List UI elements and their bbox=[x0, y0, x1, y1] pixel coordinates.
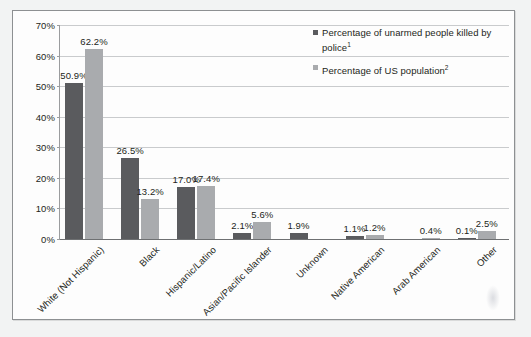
y-axis-tick-label: 50% bbox=[36, 81, 55, 92]
x-axis-tick-label: Hispanic/Latino bbox=[163, 244, 218, 299]
x-axis-tick-label: Native American bbox=[329, 244, 387, 302]
chart-legend: Percentage of unarmed people killed by p… bbox=[313, 27, 513, 86]
bar-value-label: 26.5% bbox=[116, 145, 143, 156]
y-axis-tick-label: 20% bbox=[36, 172, 55, 183]
legend-item[interactable]: Percentage of unarmed people killed by p… bbox=[313, 27, 513, 53]
bar-value-label: 13.2% bbox=[136, 186, 163, 197]
bar: 1.1% bbox=[346, 236, 364, 239]
y-axis-tick-label: 10% bbox=[36, 203, 55, 214]
y-axis-tick-mark bbox=[57, 239, 60, 240]
bar-value-label: 1.9% bbox=[287, 220, 309, 231]
bar: 50.9% bbox=[65, 83, 83, 239]
bar-value-label: 0.4% bbox=[420, 225, 442, 236]
x-axis-tick-label: Black bbox=[137, 244, 162, 269]
bar: 26.5% bbox=[121, 158, 139, 239]
bar: 13.2% bbox=[141, 199, 159, 239]
bar-value-label: 1.2% bbox=[364, 222, 386, 233]
chart-figure: 0%10%20%30%40%50%60%70%50.9%62.2%White (… bbox=[12, 10, 515, 320]
legend-swatch-icon bbox=[313, 65, 318, 70]
bar: 62.2% bbox=[85, 49, 103, 239]
y-axis-tick-label: 60% bbox=[36, 50, 55, 61]
legend-item-label: Percentage of unarmed people killed by p… bbox=[322, 27, 513, 53]
x-axis-tick-label: White (Not Hispanic) bbox=[35, 244, 106, 315]
legend-item-label: Percentage of US population2 bbox=[322, 62, 449, 77]
legend-swatch-icon bbox=[313, 30, 318, 35]
bar-value-label: 62.2% bbox=[80, 36, 107, 47]
bar-value-label: 5.6% bbox=[251, 209, 273, 220]
y-axis-tick-label: 70% bbox=[36, 20, 55, 31]
bar-value-label: 2.5% bbox=[476, 218, 498, 229]
x-axis-tick-label: Other bbox=[474, 244, 499, 269]
bar-value-label: 17.4% bbox=[193, 173, 220, 184]
bar: 17.0% bbox=[177, 187, 195, 239]
bar-value-label: 1.1% bbox=[344, 223, 366, 234]
bar: 5.6% bbox=[253, 222, 271, 239]
bar-group: 17.0%17.4%Hispanic/Latino bbox=[172, 25, 228, 239]
x-axis-tick-label: Arab American bbox=[390, 244, 443, 297]
bar: 2.5% bbox=[478, 231, 496, 239]
bar-group: 50.9%62.2%White (Not Hispanic) bbox=[60, 25, 116, 239]
bar-value-label: 0.1% bbox=[456, 225, 478, 236]
bar: 2.1% bbox=[233, 233, 251, 239]
bar-group: 2.1%5.6%Asian/Pacific Islander bbox=[228, 25, 284, 239]
legend-footnote-marker: 1 bbox=[347, 41, 351, 48]
y-axis-tick-label: 30% bbox=[36, 142, 55, 153]
x-axis-tick-label: Unknown bbox=[294, 244, 330, 280]
bar: 0.4% bbox=[422, 238, 440, 239]
bar: 1.9% bbox=[290, 233, 308, 239]
bar: 0.1% bbox=[458, 238, 476, 239]
legend-item[interactable]: Percentage of US population2 bbox=[313, 62, 513, 77]
y-axis-tick-label: 0% bbox=[41, 234, 55, 245]
y-axis-tick-label: 40% bbox=[36, 111, 55, 122]
legend-footnote-marker: 2 bbox=[445, 64, 449, 71]
bar-value-label: 50.9% bbox=[60, 70, 87, 81]
bar-group: 26.5%13.2%Black bbox=[116, 25, 172, 239]
bar: 1.2% bbox=[366, 235, 384, 239]
scan-artifact bbox=[486, 285, 500, 311]
bar-value-label: 2.1% bbox=[231, 220, 253, 231]
bar: 17.4% bbox=[197, 186, 215, 239]
